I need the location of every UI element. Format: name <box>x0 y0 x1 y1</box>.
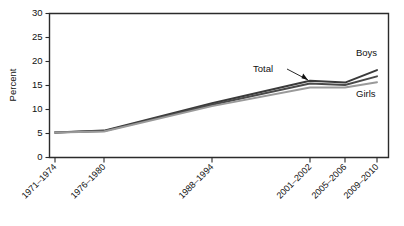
y-tick-label: 5 <box>37 127 42 138</box>
y-tick-label: 25 <box>32 31 43 42</box>
series-group <box>55 70 377 132</box>
line-chart: 051015202530 Percent 1971–19741976–19801… <box>0 0 404 226</box>
x-axis: 1971–19741976–19801988–19942001–20022005… <box>19 158 380 201</box>
y-tick-label: 10 <box>32 103 43 114</box>
annotation-arrowhead-total <box>302 74 309 80</box>
annotation-label-total: Total <box>253 63 273 74</box>
y-axis-title: Percent <box>7 68 18 101</box>
chart-container: 051015202530 Percent 1971–19741976–19801… <box>0 0 404 226</box>
y-tick-label: 20 <box>32 55 43 66</box>
y-tick-label: 30 <box>32 7 43 18</box>
y-tick-label: 0 <box>37 151 42 162</box>
series-line-boys <box>55 70 377 132</box>
x-tick-label: 1988–1994 <box>176 162 215 201</box>
x-tick-label: 1971–1974 <box>19 162 58 201</box>
annotation-label-boys: Boys <box>356 47 377 58</box>
x-tick-label: 1976–1980 <box>68 162 107 201</box>
x-tick-label: 2001–2002 <box>274 162 313 201</box>
x-tick-label: 2009–2010 <box>341 162 380 201</box>
y-tick-label: 15 <box>32 79 43 90</box>
series-line-girls <box>55 82 377 132</box>
y-axis: 051015202530 <box>32 7 50 162</box>
annotation-label-girls: Girls <box>356 88 376 99</box>
